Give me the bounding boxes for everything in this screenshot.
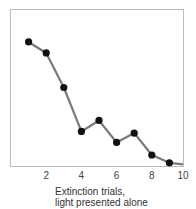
line-chart: 246810 [0, 0, 196, 209]
x-tick-label: 4 [79, 170, 85, 181]
data-point-marker [78, 128, 85, 135]
data-point-marker [60, 84, 67, 91]
x-axis-label-line-2: light presented alone [55, 197, 148, 208]
x-axis-label: Extinction trials, light presented alone [55, 186, 148, 208]
data-point-marker [166, 159, 173, 166]
series-line [29, 42, 183, 164]
x-tick-label: 8 [149, 170, 155, 181]
data-point-marker [113, 139, 120, 146]
data-point-marker [131, 129, 138, 136]
x-tick-label: 10 [177, 170, 189, 181]
x-axis-ticks: 246810 [43, 170, 189, 181]
data-point-marker [95, 117, 102, 124]
x-tick-label: 6 [114, 170, 120, 181]
data-point-marker [43, 49, 50, 56]
data-markers [25, 38, 173, 166]
x-tick-label: 2 [43, 170, 49, 181]
x-axis-label-line-1: Extinction trials, [55, 186, 148, 197]
plot-frame [11, 10, 184, 167]
data-point-marker [148, 151, 155, 158]
data-point-marker [25, 38, 32, 45]
